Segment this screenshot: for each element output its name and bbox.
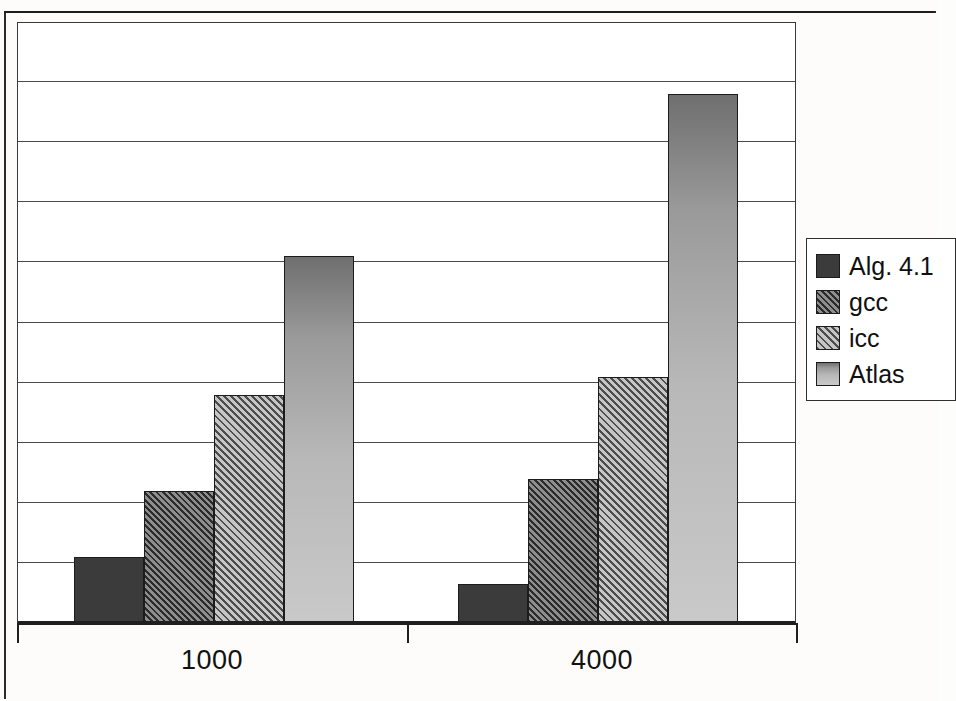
legend-item-label: gcc xyxy=(849,290,888,315)
x-axis-tick xyxy=(407,623,409,643)
bar xyxy=(74,557,144,623)
bar xyxy=(458,584,528,623)
bar xyxy=(528,479,598,623)
plot-area xyxy=(17,22,796,623)
legend-swatch-icon xyxy=(816,326,840,350)
x-axis-tick xyxy=(796,623,798,643)
bar xyxy=(144,491,214,623)
plot-inner xyxy=(18,23,795,623)
gridline xyxy=(18,81,795,82)
legend-item[interactable]: Atlas xyxy=(816,356,955,392)
legend-item[interactable]: Alg. 4.1 xyxy=(816,248,955,284)
legend-swatch-icon xyxy=(816,254,840,278)
legend-item[interactable]: gcc xyxy=(816,284,955,320)
legend-item-label: Atlas xyxy=(849,362,905,387)
legend-swatch-icon xyxy=(816,362,840,386)
chart-legend: Alg. 4.1gcciccAtlas xyxy=(806,238,956,401)
x-axis-label: 1000 xyxy=(152,645,272,676)
x-axis-label: 4000 xyxy=(542,645,662,676)
legend-swatch-icon xyxy=(816,290,840,314)
x-axis-tick xyxy=(17,623,19,643)
legend-item[interactable]: icc xyxy=(816,320,955,356)
legend-item-label: icc xyxy=(849,326,880,351)
legend-item-label: Alg. 4.1 xyxy=(849,254,934,279)
bar xyxy=(668,94,738,623)
bar xyxy=(214,395,284,623)
bar xyxy=(284,256,354,623)
bar xyxy=(598,377,668,623)
